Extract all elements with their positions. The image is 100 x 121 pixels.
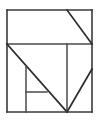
tangram-diagram [0,0,100,121]
tangram-figure-container [0,0,100,121]
